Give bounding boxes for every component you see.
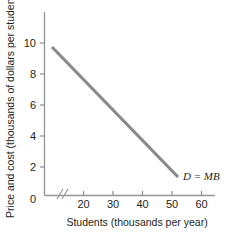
x-tick-label-40: 40 [136,198,148,210]
y-tick-label-4: 4 [30,130,36,142]
x-tick-label-60: 60 [195,198,207,210]
y-tick-label-6: 6 [30,99,36,111]
y-tick-label-10: 10 [24,37,36,49]
y-tick-label-2: 2 [30,161,36,173]
x-axis-title: Students (thousands per year) [66,216,207,228]
x-tick-label-50: 50 [166,198,178,210]
y-axis-ticks [40,43,45,167]
chart-figure: 10 8 6 4 2 0 20 30 40 50 60 D = MB Stude… [0,0,231,235]
x-tick-label-30: 30 [107,198,119,210]
y-tick-label-8: 8 [30,68,36,80]
x-tick-label-20: 20 [77,198,89,210]
y-axis-title: Price and cost (thousands of dollars per… [4,0,16,218]
x-axis-break-icon [57,189,68,199]
chart-plot-area: 10 8 6 4 2 0 20 30 40 50 60 D = MB Stude… [0,0,231,235]
x-axis-ticks [84,191,202,196]
y-tick-label-0: 0 [30,193,36,205]
demand-curve-line [52,47,178,177]
demand-curve-label: D = MB [182,170,220,182]
